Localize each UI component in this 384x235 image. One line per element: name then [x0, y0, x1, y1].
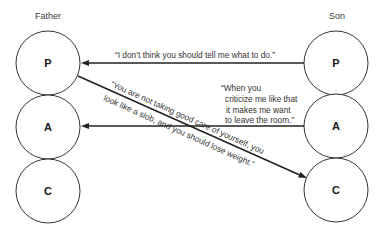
arrowhead-icon	[81, 123, 89, 129]
arrowhead-icon	[81, 60, 89, 66]
arrowhead-icon	[298, 172, 307, 178]
father-ego-states: P A C	[16, 31, 80, 223]
transaction-quote-line-1: “When you	[221, 83, 262, 93]
transaction-father-parent-to-son-child: “You are not taking good care of yoursel…	[78, 76, 307, 178]
son-child-label: C	[332, 184, 340, 196]
father-child-label: C	[44, 185, 52, 197]
father-adult-label: A	[44, 121, 52, 133]
transaction-quote-line-4: to leave the room.”	[225, 115, 294, 125]
father-parent-label: P	[44, 57, 51, 69]
son-ego-states: P A C	[304, 31, 368, 222]
son-label: Son	[329, 11, 345, 21]
transactional-analysis-diagram: Father Son P A C P A C “I don’t think yo…	[0, 0, 384, 235]
transaction-quote-line-2: criticize me like that	[225, 94, 298, 104]
son-parent-label: P	[332, 57, 339, 69]
transaction-quote-line-3: it makes me want	[226, 105, 291, 115]
transaction-son-parent-to-father-parent: “I don’t think you should tell me what t…	[81, 50, 304, 66]
son-adult-label: A	[332, 120, 340, 132]
father-label: Father	[35, 11, 61, 21]
transaction-quote: “I don’t think you should tell me what t…	[115, 50, 275, 60]
